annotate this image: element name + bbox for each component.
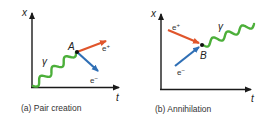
event-point-a bbox=[75, 50, 79, 54]
electron-label: e− bbox=[90, 75, 98, 85]
photon-label: γ bbox=[218, 21, 224, 32]
x-axis-label: x bbox=[150, 8, 157, 19]
electron-worldline bbox=[175, 47, 199, 66]
caption-annihilation: (b) Annihilation bbox=[155, 104, 212, 114]
photon-worldline bbox=[203, 24, 254, 47]
t-axis-label: t bbox=[251, 93, 255, 104]
photon-worldline bbox=[33, 52, 76, 87]
electron-label: e− bbox=[177, 67, 185, 77]
event-label-b: B bbox=[200, 50, 207, 61]
x-axis-label: x bbox=[21, 7, 28, 18]
spacetime-diagrams: x t γ e+ e− A (a) Pair creation x t e+ e… bbox=[0, 0, 273, 123]
caption-pair-creation: (a) Pair creation bbox=[21, 103, 82, 113]
positron-label: e+ bbox=[172, 22, 180, 32]
panel-pair-creation: x t γ e+ e− A (a) Pair creation bbox=[21, 7, 120, 113]
panel-annihilation: x t e+ e− γ B (b) Annihilation bbox=[150, 8, 255, 114]
event-label-a: A bbox=[67, 41, 75, 52]
photon-label: γ bbox=[42, 56, 48, 67]
t-axis-label: t bbox=[116, 92, 120, 103]
electron-worldline bbox=[77, 52, 98, 71]
positron-label: e+ bbox=[102, 43, 110, 53]
event-point-b bbox=[200, 43, 204, 47]
